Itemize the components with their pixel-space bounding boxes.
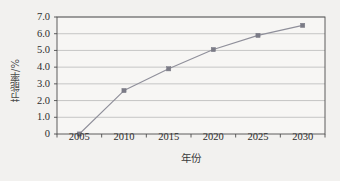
data-point-marker <box>122 88 126 92</box>
data-point-marker <box>167 67 171 71</box>
data-point-marker <box>301 23 305 27</box>
x-axis-tick-labels: 200520102015202020252030 <box>57 131 325 147</box>
x-axis-title: 年份 <box>57 150 325 165</box>
x-axis-tick-label: 2015 <box>146 131 191 147</box>
x-axis-tick-label: 2025 <box>236 131 281 147</box>
x-axis-tick-label: 2020 <box>191 131 236 147</box>
chart-figure: 节能率/% 7.06.05.04.03.02.01.00 20052010201… <box>0 0 340 181</box>
x-axis-tick-label: 2010 <box>102 131 147 147</box>
data-point-marker <box>211 47 215 51</box>
x-axis-tick-label: 2005 <box>57 131 102 147</box>
data-point-marker <box>256 33 260 37</box>
x-axis-tick-label: 2030 <box>280 131 325 147</box>
